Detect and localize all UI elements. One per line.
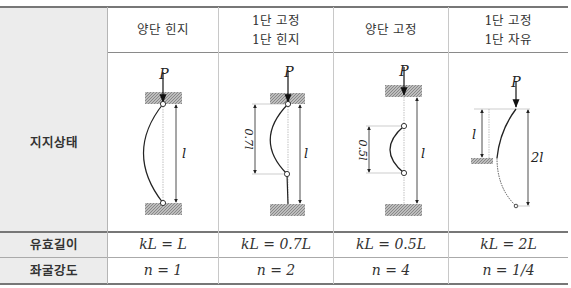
length-label-0-5l: 0.5l xyxy=(356,139,369,160)
length-label-0-7l: 0.7l xyxy=(242,128,255,149)
load-label: P xyxy=(158,66,169,82)
diagram-fixed-fixed: P 0.5l l xyxy=(356,63,425,216)
length-label: l xyxy=(182,146,186,161)
mirrored-curve-dotted xyxy=(497,158,516,206)
length-label-l: l xyxy=(304,146,308,161)
pin-joint xyxy=(160,200,165,205)
length-label-2l: 2l xyxy=(530,150,543,165)
buckled-column-curve xyxy=(390,126,404,173)
buckled-column-curve xyxy=(144,104,164,203)
pin-joint xyxy=(284,171,289,176)
pin-joint xyxy=(160,101,165,106)
length-label-l: l xyxy=(472,127,476,142)
pin-joint xyxy=(401,170,406,175)
load-label: P xyxy=(510,74,521,90)
buckled-column-curve xyxy=(270,104,288,204)
diagram-fixed-free: P l 2l xyxy=(471,74,543,208)
load-label: P xyxy=(398,63,409,79)
bottom-support-hatch xyxy=(385,204,422,216)
diagram-pinned-pinned: P l xyxy=(144,66,187,215)
ground-support-hatch xyxy=(471,158,493,164)
load-label: P xyxy=(283,64,294,80)
length-label-l: l xyxy=(421,146,425,161)
pin-joint xyxy=(285,101,290,106)
bottom-support-hatch xyxy=(270,204,305,216)
diagram-fixed-pinned: P 0.7l l xyxy=(242,64,308,216)
support-condition-diagrams: P l P 0.7l l P 0.5l l xyxy=(0,0,571,288)
buckled-column-curve xyxy=(497,109,516,158)
pin-joint xyxy=(401,123,406,128)
